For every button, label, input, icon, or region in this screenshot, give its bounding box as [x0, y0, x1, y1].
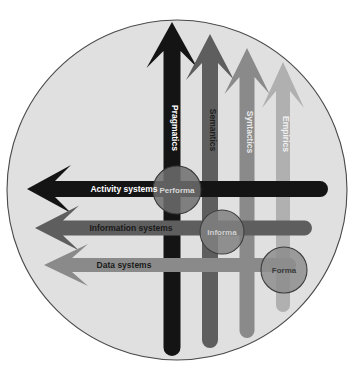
node-forma[interactable]: Forma: [261, 247, 307, 293]
vertical-arrow-label-syntactics: Syntactics: [245, 111, 255, 154]
node-performa[interactable]: Performa: [153, 166, 201, 214]
vertical-arrow-label-semantics: Semantics: [208, 109, 218, 152]
horizontal-arrow-label-activity-systems: Activity systems: [90, 184, 157, 194]
node-label-performa: Performa: [159, 186, 195, 195]
vertical-arrow-label-empirics: Empirics: [281, 116, 291, 152]
horizontal-arrow-label-information-systems: Information systems: [89, 223, 172, 233]
semiotic-ladder-diagram: PragmaticsSemanticsSyntacticsEmpiricsPer…: [0, 0, 354, 380]
node-label-forma: Forma: [272, 266, 297, 275]
vertical-arrow-label-pragmatics: Pragmatics: [170, 105, 180, 151]
diagram-canvas: PragmaticsSemanticsSyntacticsEmpiricsPer…: [0, 0, 354, 380]
horizontal-arrow-label-data-systems: Data systems: [97, 260, 152, 270]
node-informa[interactable]: Informa: [200, 210, 244, 254]
node-label-informa: Informa: [207, 228, 237, 237]
